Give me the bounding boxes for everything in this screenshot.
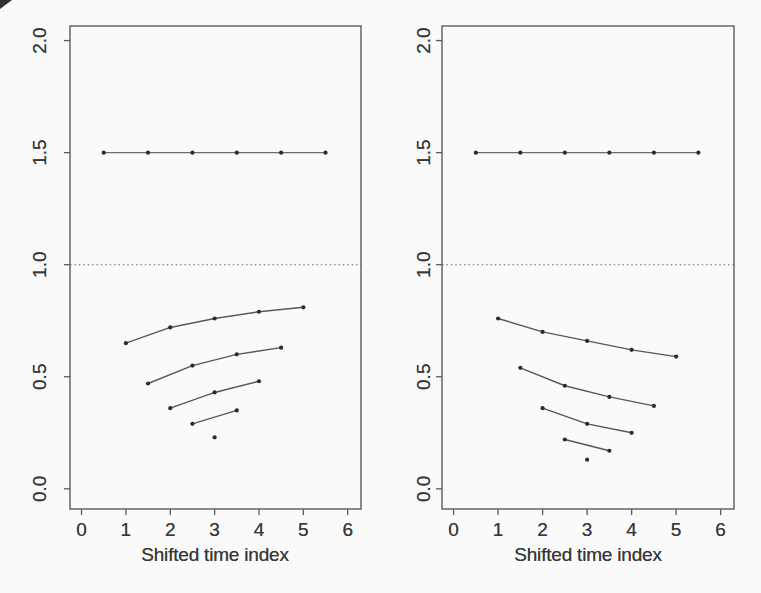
figure-two-panel-plot: 01234560.00.51.01.52.001234560.00.51.01.… bbox=[0, 0, 761, 593]
data-point bbox=[585, 339, 589, 343]
data-point bbox=[301, 305, 305, 309]
x-tick-label: 6 bbox=[715, 519, 726, 540]
data-point bbox=[630, 431, 634, 435]
data-point bbox=[235, 151, 239, 155]
x-tick-label: 6 bbox=[342, 519, 353, 540]
data-point bbox=[323, 151, 327, 155]
data-point bbox=[607, 151, 611, 155]
y-tick-label: 0.0 bbox=[413, 476, 434, 502]
data-point bbox=[235, 352, 239, 356]
y-tick-label: 0.5 bbox=[29, 364, 50, 390]
data-point bbox=[213, 316, 217, 320]
data-point bbox=[563, 151, 567, 155]
y-tick-label: 2.0 bbox=[413, 27, 434, 53]
y-tick-label: 0.0 bbox=[29, 476, 50, 502]
x-tick-label: 4 bbox=[254, 519, 265, 540]
data-point bbox=[279, 151, 283, 155]
data-point bbox=[585, 422, 589, 426]
data-point bbox=[146, 151, 150, 155]
figure-canvas: 01234560.00.51.01.52.001234560.00.51.01.… bbox=[0, 0, 761, 593]
data-point bbox=[257, 310, 261, 314]
y-tick-label: 2.0 bbox=[29, 27, 50, 53]
data-point bbox=[607, 449, 611, 453]
series-line-curve-4 bbox=[565, 440, 610, 451]
series-line-curve-1 bbox=[498, 318, 676, 356]
data-point bbox=[235, 408, 239, 412]
x-tick-label: 3 bbox=[209, 519, 220, 540]
data-point bbox=[213, 390, 217, 394]
data-point bbox=[124, 341, 128, 345]
plot-panel-right: 01234560.00.51.01.52.0 bbox=[413, 26, 735, 540]
data-point bbox=[496, 316, 500, 320]
data-point bbox=[563, 384, 567, 388]
data-point bbox=[540, 330, 544, 334]
x-tick-label: 0 bbox=[76, 519, 87, 540]
data-point bbox=[674, 354, 678, 358]
data-point bbox=[190, 151, 194, 155]
series-line-curve-2 bbox=[148, 348, 281, 384]
data-point bbox=[190, 422, 194, 426]
data-point bbox=[652, 151, 656, 155]
data-point bbox=[168, 406, 172, 410]
data-point bbox=[102, 151, 106, 155]
scan-corner-artifact bbox=[0, 0, 12, 9]
series-line-curve-1 bbox=[126, 307, 303, 343]
plot-box bbox=[442, 26, 734, 509]
y-tick-label: 1.5 bbox=[29, 139, 50, 165]
plot-panel-left: 01234560.00.51.01.52.0 bbox=[29, 26, 362, 540]
x-tick-label: 1 bbox=[121, 519, 132, 540]
data-point bbox=[563, 437, 567, 441]
x-axis-label-right: Shifted time index bbox=[514, 544, 661, 566]
y-tick-label: 1.0 bbox=[413, 251, 434, 277]
data-point bbox=[652, 404, 656, 408]
x-tick-label: 2 bbox=[165, 519, 176, 540]
data-point bbox=[146, 381, 150, 385]
data-point bbox=[213, 435, 217, 439]
data-point bbox=[257, 379, 261, 383]
x-axis-label-left: Shifted time index bbox=[141, 544, 288, 566]
y-tick-label: 1.5 bbox=[413, 139, 434, 165]
data-point bbox=[630, 348, 634, 352]
data-point bbox=[585, 458, 589, 462]
x-tick-label: 1 bbox=[493, 519, 504, 540]
data-point bbox=[696, 151, 700, 155]
x-tick-label: 5 bbox=[298, 519, 309, 540]
x-tick-label: 4 bbox=[626, 519, 637, 540]
x-tick-label: 3 bbox=[582, 519, 593, 540]
data-point bbox=[474, 151, 478, 155]
series-line-curve-2 bbox=[520, 368, 654, 406]
data-point bbox=[518, 366, 522, 370]
data-point bbox=[279, 346, 283, 350]
series-line-curve-3 bbox=[170, 381, 259, 408]
x-tick-label: 5 bbox=[671, 519, 682, 540]
x-tick-label: 2 bbox=[537, 519, 548, 540]
data-point bbox=[540, 406, 544, 410]
x-tick-label: 0 bbox=[448, 519, 459, 540]
data-point bbox=[168, 325, 172, 329]
series-line-curve-3 bbox=[543, 408, 632, 433]
data-point bbox=[190, 363, 194, 367]
series-line-curve-4 bbox=[192, 410, 236, 423]
data-point bbox=[518, 151, 522, 155]
y-tick-label: 0.5 bbox=[413, 364, 434, 390]
data-point bbox=[607, 395, 611, 399]
y-tick-label: 1.0 bbox=[29, 251, 50, 277]
